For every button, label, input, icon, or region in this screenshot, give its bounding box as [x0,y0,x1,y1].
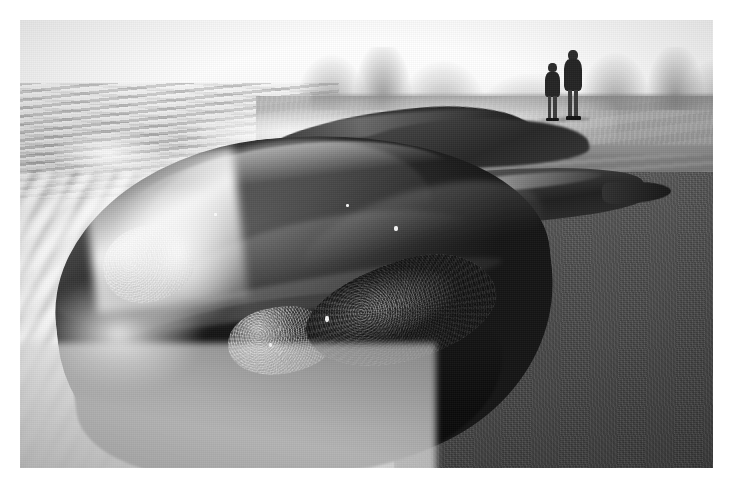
person-right-leg-b [574,90,578,118]
photo-page [0,0,733,490]
person-left-leg-a [548,96,551,119]
person-left-head [548,63,557,73]
highlight-speck [325,316,329,322]
person-right [563,50,582,120]
person-right-foot-b [573,116,581,120]
surf-spray [82,147,250,314]
person-right-leg-a [568,90,572,118]
person-left-leg-b [553,96,556,119]
person-left [544,63,561,121]
highlight-speck [346,204,349,207]
person-right-torso [564,59,582,91]
person-left-torso [545,72,560,98]
photograph [20,20,713,468]
surf-foreground [20,343,436,468]
